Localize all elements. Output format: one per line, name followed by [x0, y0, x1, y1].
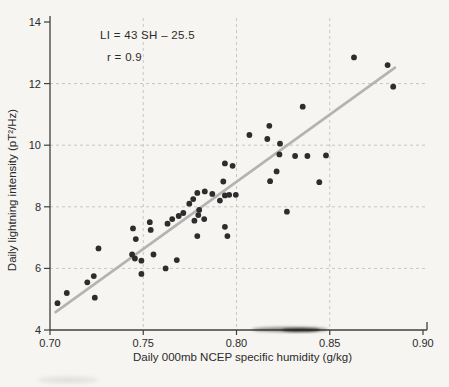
data-point — [96, 246, 102, 252]
data-point — [195, 212, 201, 218]
data-point — [226, 192, 232, 198]
data-point — [174, 257, 180, 263]
data-point — [55, 300, 61, 306]
data-point — [300, 104, 306, 110]
y-tick-label: 4 — [11, 325, 41, 336]
data-point — [133, 236, 139, 242]
data-point — [148, 227, 154, 233]
y-tick-label: 14 — [11, 17, 41, 28]
data-point — [233, 192, 239, 198]
correlation-coefficient-annotation: r = 0.9 — [107, 51, 142, 63]
data-point — [305, 153, 311, 159]
data-point — [266, 123, 272, 129]
y-tick-label: 6 — [11, 263, 41, 274]
data-point — [151, 252, 157, 258]
data-point — [277, 141, 283, 147]
x-tick-label: 0.70 — [30, 338, 70, 349]
data-point — [165, 221, 171, 227]
data-point — [292, 153, 298, 159]
data-point — [264, 136, 270, 142]
data-point — [190, 196, 196, 202]
data-point — [192, 218, 198, 224]
chart-canvas — [0, 0, 449, 387]
data-point — [209, 191, 215, 197]
data-point — [130, 226, 136, 232]
data-point — [390, 84, 396, 90]
data-point — [132, 256, 138, 262]
data-point — [202, 189, 208, 195]
data-point — [217, 198, 223, 204]
data-point — [284, 209, 290, 215]
data-point — [186, 201, 192, 207]
data-point — [277, 152, 283, 158]
data-point — [220, 179, 226, 185]
data-point — [222, 161, 228, 167]
x-tick-label: 0.75 — [123, 338, 163, 349]
data-point — [222, 224, 228, 230]
data-point — [267, 178, 273, 184]
data-point — [176, 213, 182, 219]
data-point — [385, 62, 391, 68]
data-point — [64, 290, 70, 296]
y-tick-label: 12 — [11, 79, 41, 90]
data-point — [316, 179, 322, 185]
regression-equation-annotation: LI = 43 SH – 25.5 — [100, 29, 195, 41]
data-point — [139, 258, 145, 264]
data-point — [274, 169, 280, 175]
data-point — [351, 55, 357, 61]
x-tick-label: 0.85 — [310, 338, 350, 349]
data-point — [225, 233, 231, 239]
regression-line — [56, 68, 395, 313]
data-point — [84, 279, 90, 285]
data-point — [163, 266, 169, 272]
x-axis-label: Daily 000mb NCEP specific humidity (g/kg… — [100, 351, 385, 363]
x-tick-label: 0.80 — [217, 338, 257, 349]
data-point — [194, 233, 200, 239]
data-point — [247, 132, 253, 138]
data-point — [169, 216, 175, 222]
data-point — [230, 163, 236, 169]
data-point — [201, 216, 207, 222]
data-point — [92, 295, 98, 301]
data-point — [323, 153, 329, 159]
data-point — [91, 273, 97, 279]
y-tick-label: 10 — [11, 140, 41, 151]
x-tick-label: 0.90 — [403, 338, 443, 349]
y-tick-label: 8 — [11, 202, 41, 213]
data-point — [196, 207, 202, 213]
data-point — [194, 190, 200, 196]
data-point — [139, 271, 145, 277]
data-point — [147, 219, 153, 225]
scatter-plot-figure: Daily lightning intensity (pT²/Hz) Daily… — [0, 0, 449, 387]
